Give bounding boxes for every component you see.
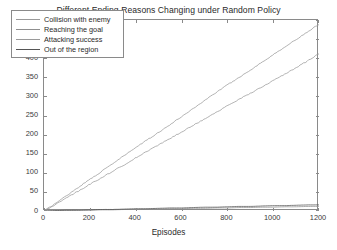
y-tick-label: 300 — [8, 91, 38, 100]
y-tick-mark — [316, 192, 319, 193]
y-tick-mark — [316, 58, 319, 59]
x-tick-label: 1200 — [298, 213, 337, 222]
x-axis-label: Episodes — [0, 228, 337, 237]
legend-item[interactable]: Reaching the goal — [14, 24, 121, 34]
y-tick-mark — [44, 135, 47, 136]
x-tick-mark — [227, 208, 228, 211]
x-tick-label: 800 — [206, 213, 246, 222]
y-tick-mark — [44, 96, 47, 97]
legend-item-label: Attacking success — [44, 35, 102, 44]
x-tick-mark — [227, 20, 228, 23]
legend-line-swatch — [16, 35, 40, 44]
x-tick-mark — [318, 208, 319, 211]
y-tick-mark — [44, 154, 47, 155]
y-tick-mark — [316, 39, 319, 40]
y-tick-mark — [44, 192, 47, 193]
y-tick-mark — [316, 173, 319, 174]
y-tick-mark — [316, 77, 319, 78]
legend-item[interactable]: Out of the region — [14, 44, 121, 54]
legend-item[interactable]: Attacking success — [14, 34, 121, 44]
legend-item-label: Reaching the goal — [44, 25, 103, 34]
legend-item[interactable]: Collision with enemy — [14, 14, 121, 24]
legend-line-swatch — [16, 45, 40, 54]
y-tick-label: 150 — [8, 148, 38, 157]
x-tick-mark — [273, 208, 274, 211]
legend-item-label: Out of the region — [44, 45, 98, 54]
y-tick-label: 50 — [8, 186, 38, 195]
legend: Collision with enemy Reaching the goal A… — [11, 10, 124, 58]
y-tick-label: 250 — [8, 110, 38, 119]
x-tick-label: 1000 — [252, 213, 292, 222]
y-tick-mark — [316, 135, 319, 136]
x-tick-label: 400 — [115, 213, 155, 222]
y-tick-mark — [44, 116, 47, 117]
legend-line-swatch — [16, 15, 40, 24]
y-tick-mark — [44, 173, 47, 174]
x-tick-label: 200 — [69, 213, 109, 222]
x-tick-mark — [136, 20, 137, 23]
x-tick-label: 600 — [161, 213, 201, 222]
y-tick-mark — [44, 77, 47, 78]
x-tick-mark — [136, 208, 137, 211]
legend-item-label: Collision with enemy — [44, 15, 111, 24]
y-tick-mark — [316, 154, 319, 155]
y-tick-mark — [316, 96, 319, 97]
series-line — [44, 54, 319, 211]
x-tick-mark — [90, 208, 91, 211]
x-tick-label: 0 — [23, 213, 63, 222]
y-tick-mark — [44, 58, 47, 59]
x-tick-mark — [182, 20, 183, 23]
y-tick-label: 350 — [8, 72, 38, 81]
y-tick-mark — [316, 116, 319, 117]
figure-canvas: Different Ending Reasons Changing under … — [0, 0, 337, 250]
legend-line-swatch — [16, 25, 40, 34]
x-tick-mark — [44, 208, 45, 211]
x-tick-mark — [318, 20, 319, 23]
x-tick-mark — [182, 208, 183, 211]
y-tick-label: 200 — [8, 129, 38, 138]
y-tick-label: 100 — [8, 167, 38, 176]
x-tick-mark — [273, 20, 274, 23]
